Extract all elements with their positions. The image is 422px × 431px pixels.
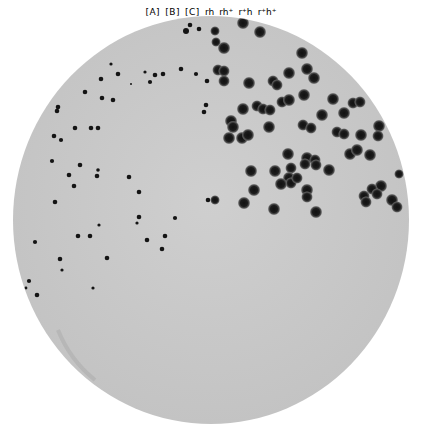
agar-surface	[13, 16, 409, 424]
petri-dish-figure	[0, 0, 422, 431]
